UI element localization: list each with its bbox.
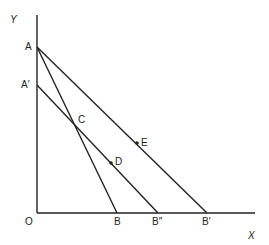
diagram-lines: [0, 0, 269, 245]
line-Aprime-Bdoubleprime: [37, 85, 158, 213]
x-axis-label: X: [248, 231, 255, 241]
point-E-marker: [135, 141, 139, 145]
label-B-prime: B′: [202, 217, 211, 227]
y-axis-label: Y: [10, 15, 17, 25]
point-D-marker: [109, 161, 113, 165]
label-A: A: [25, 42, 32, 52]
line-A-B: [37, 47, 117, 213]
label-D: D: [115, 157, 122, 167]
label-B-double-prime: B″: [152, 217, 162, 227]
label-E: E: [141, 138, 148, 148]
budget-line-diagram: Y X O A A′ C E D B B″ B′: [0, 0, 269, 245]
label-B: B: [114, 217, 121, 227]
line-A-Bprime: [37, 47, 207, 213]
label-C: C: [78, 115, 85, 125]
label-A-prime: A′: [21, 80, 30, 90]
origin-label: O: [25, 217, 33, 227]
